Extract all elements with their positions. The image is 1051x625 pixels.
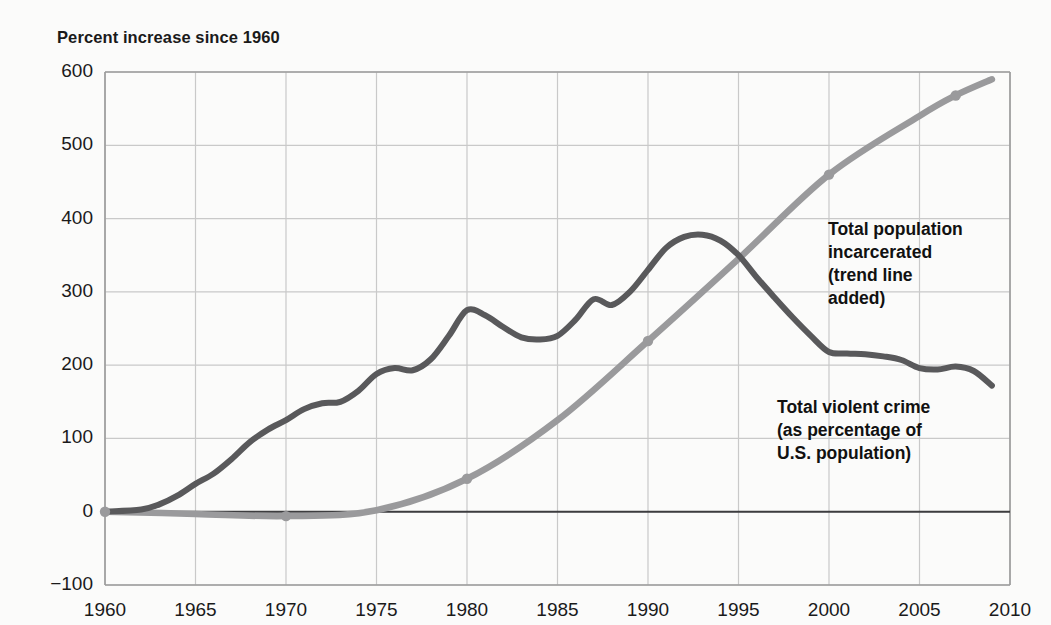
y-axis-tick-label: 400: [19, 207, 93, 229]
annotation-violent-crime: Total violent crime (as percentage of U.…: [777, 396, 930, 465]
x-axis-tick-label: 2005: [880, 599, 960, 621]
chart-container: Percent increase since 1960 600500400300…: [0, 0, 1051, 625]
x-axis-tick-label: 1985: [518, 599, 598, 621]
y-axis-tick-label: 100: [19, 426, 93, 448]
gridlines: [105, 72, 1010, 585]
y-axis-tick-label: 0: [19, 500, 93, 522]
y-axis-tick-label: 200: [19, 353, 93, 375]
y-axis-tick-label: 300: [19, 280, 93, 302]
data-point-marker: [281, 511, 291, 521]
data-point-marker: [824, 169, 834, 179]
x-axis-tick-label: 1965: [156, 599, 236, 621]
y-axis-tick-label: −100: [19, 573, 93, 595]
x-axis-tick-label: 1970: [246, 599, 326, 621]
x-axis-tick-label: 1975: [337, 599, 417, 621]
chart-plot-area: [0, 0, 1051, 625]
data-point-marker: [643, 336, 653, 346]
x-axis-tick-label: 1960: [65, 599, 145, 621]
annotation-incarcerated: Total population incarcerated (trend lin…: [828, 218, 963, 310]
x-axis-tick-label: 1995: [699, 599, 779, 621]
data-point-marker: [462, 474, 472, 484]
data-point-marker: [100, 507, 110, 517]
x-axis-tick-label: 2000: [789, 599, 869, 621]
x-axis-tick-label: 2010: [970, 599, 1050, 621]
data-point-marker: [951, 90, 961, 100]
x-axis-tick-label: 1990: [608, 599, 688, 621]
y-axis-tick-label: 600: [19, 60, 93, 82]
y-axis-tick-label: 500: [19, 133, 93, 155]
x-axis-tick-label: 1980: [427, 599, 507, 621]
